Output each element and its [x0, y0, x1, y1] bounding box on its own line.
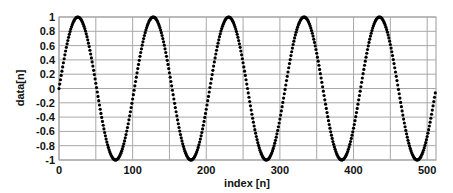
y-tick-label: -1 — [45, 154, 55, 166]
x-axis-label: index [n] — [224, 177, 270, 189]
y-tick-label: 1 — [49, 11, 55, 23]
x-tick-label: 0 — [56, 164, 62, 176]
y-tick-label: -0.4 — [36, 111, 56, 123]
y-tick-label: -0.8 — [36, 140, 55, 152]
y-axis-ticks: 10.80.60.40.20-0.2-0.4-0.6-0.8-1 — [36, 11, 56, 166]
y-axis-label: data[n] — [14, 69, 26, 106]
y-tick-label: 0.8 — [40, 25, 55, 37]
x-tick-label: 100 — [123, 164, 141, 176]
x-tick-label: 300 — [271, 164, 289, 176]
y-tick-label: -0.2 — [36, 97, 55, 109]
x-tick-label: 400 — [344, 164, 362, 176]
sine-chart: 10.80.60.40.20-0.2-0.4-0.6-0.8-1 0100200… — [0, 0, 453, 193]
y-tick-label: -0.6 — [36, 125, 55, 137]
y-tick-label: 0.4 — [40, 54, 56, 66]
x-tick-label: 500 — [418, 164, 436, 176]
y-tick-label: 0.6 — [40, 40, 55, 52]
x-axis-ticks: 0100200300400500 — [56, 164, 436, 176]
y-tick-label: 0 — [49, 83, 55, 95]
y-tick-label: 0.2 — [40, 68, 55, 80]
x-tick-label: 200 — [197, 164, 215, 176]
